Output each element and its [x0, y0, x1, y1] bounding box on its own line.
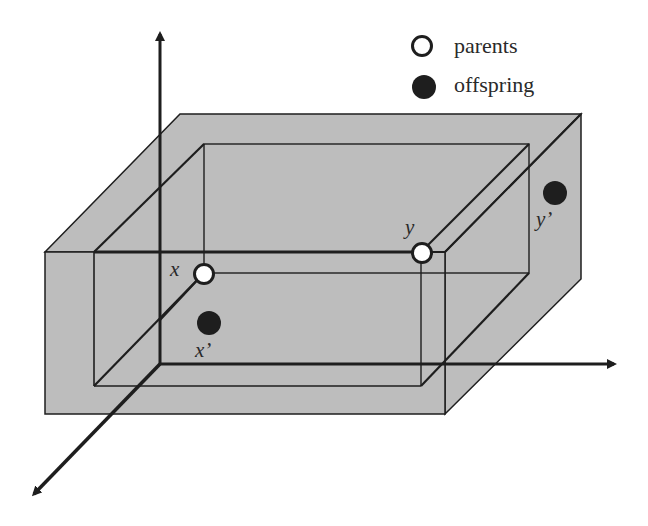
legend-parents-icon: [413, 37, 432, 56]
legend-parents-label: parents: [454, 33, 518, 58]
parent-point-y: [413, 244, 432, 263]
outer-box: [45, 114, 581, 414]
legend-offspring-label: offspring: [454, 72, 534, 97]
offspring-point-x-prime: [197, 311, 221, 335]
legend-offspring-icon: [412, 75, 436, 99]
point-x-label: x: [169, 257, 180, 281]
offspring-point-y-prime: [543, 181, 567, 205]
point-x-prime-label: x’: [194, 338, 211, 362]
legend: parents offspring: [412, 33, 534, 99]
point-y-prime-label: y’: [534, 207, 552, 231]
outer-box-front-face: [45, 252, 445, 414]
parent-point-x: [195, 265, 214, 284]
diagram-canvas: x y x’ y’ parents offspring: [0, 0, 648, 526]
point-y-label: y: [403, 215, 415, 239]
